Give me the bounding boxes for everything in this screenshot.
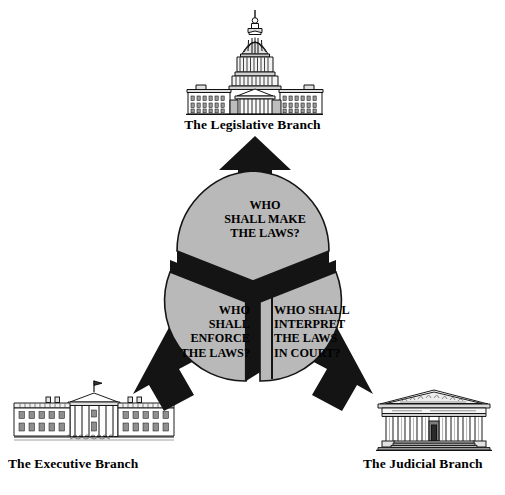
three-branches-diagram: The Legislative Branch [0,0,505,495]
question-legislative: WHO SHALL MAKE THE LAWS? [205,198,325,241]
question-judicial: WHO SHALL INTERPRET THE LAWS IN COURT? [274,303,364,360]
question-executive: WHO SHALL ENFORCE THE LAWS? [175,303,250,360]
branches-core-graphic [0,0,505,495]
